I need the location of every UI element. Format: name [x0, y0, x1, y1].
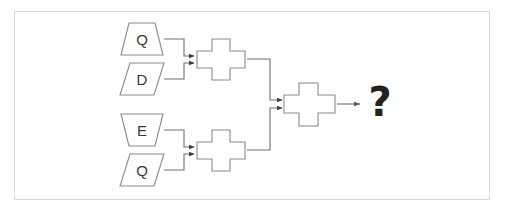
edge-op-bottom-to-op-final	[247, 108, 282, 150]
edge-in4-to-op-bottom	[164, 154, 194, 170]
edge-in2-to-op-top	[164, 63, 194, 79]
edge-op-top-to-op-final	[247, 59, 282, 100]
operator-cross-final	[284, 83, 335, 126]
output-question-mark: ?	[363, 79, 397, 125]
input-shape-inverted-trapezoid-e	[121, 114, 163, 146]
input-shape-parallelogram-q	[120, 154, 164, 186]
edge-in1-to-op-top	[164, 39, 194, 56]
input-shape-parallelogram-d	[120, 63, 164, 95]
diagram-graphics	[0, 0, 505, 209]
operator-cross-bottom	[197, 130, 245, 171]
diagram-canvas: Q D E Q ?	[0, 0, 505, 209]
edge-in3-to-op-bottom	[164, 130, 194, 147]
operator-cross-top	[197, 39, 245, 80]
input-shape-trapezoid-q	[121, 23, 163, 55]
